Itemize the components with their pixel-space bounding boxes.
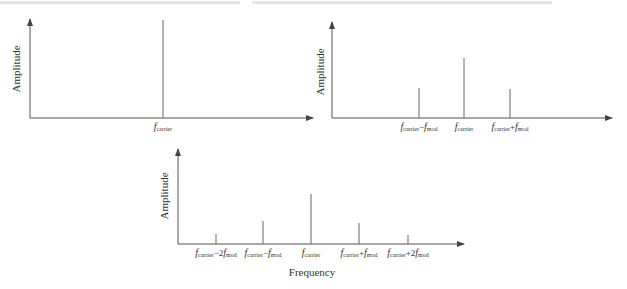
spectrum-diagrams xyxy=(0,0,627,289)
chart-1-tick-carrier: fcarrier xyxy=(154,122,172,134)
chart-3-fm-spectrum xyxy=(178,149,464,244)
chart-3-tick-upper-1: fcarrier+fmod xyxy=(341,248,378,260)
chart-3-x-axis-label: Frequency xyxy=(289,266,335,278)
chart-2-tick-lower-sideband: fcarrier−fmod xyxy=(401,122,438,134)
chart-3-tick-carrier: fcarrier xyxy=(302,248,320,260)
chart-2-tick-upper-sideband: fcarrier+fmod xyxy=(492,122,529,134)
chart-2-y-axis-label: Amplitude xyxy=(314,48,326,95)
chart-3-tick-lower-1: fcarrier−fmod xyxy=(245,248,282,260)
chart-1-y-axis-label: Amplitude xyxy=(10,45,22,92)
chart-3-y-axis-label: Amplitude xyxy=(158,172,170,219)
chart-2-am-spectrum xyxy=(332,22,612,118)
chart-2-tick-carrier: fcarrier xyxy=(455,122,473,134)
chart-3-tick-upper-2: fcarrier+2fmod xyxy=(387,248,428,260)
chart-3-tick-lower-2: fcarrier−2fmod xyxy=(195,248,236,260)
chart-1-unmodulated-carrier xyxy=(30,19,313,118)
